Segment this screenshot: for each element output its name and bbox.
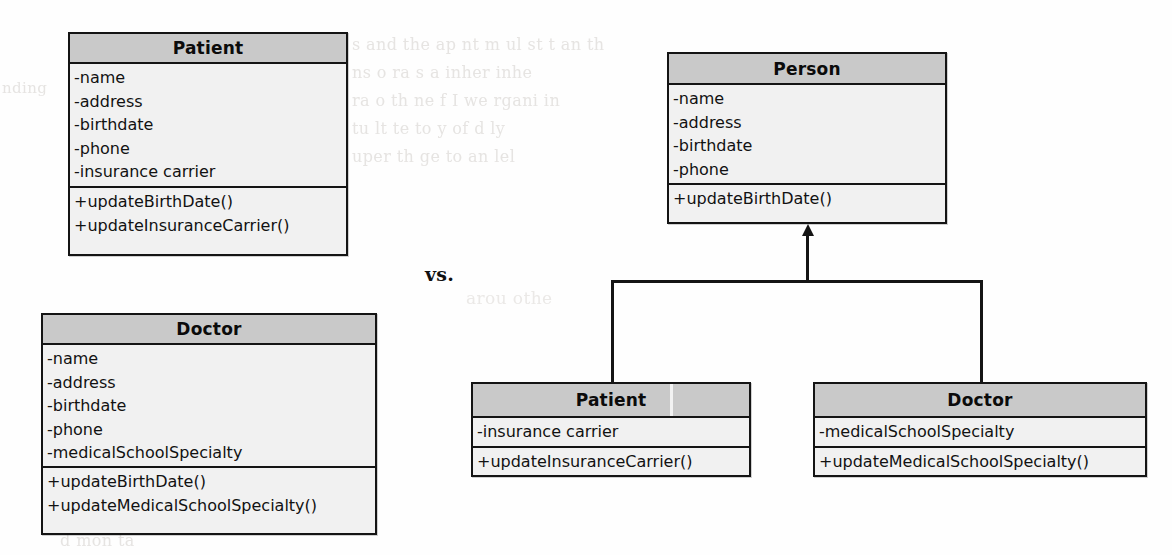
ghost-text-line: tu lt te to y of d ly [352,118,505,139]
class-box-patient-subclass[interactable]: Patient -insurance carrier +updateInsura… [471,382,751,477]
operation-item: +updateMedicalSchoolSpecialty() [819,450,1141,474]
ghost-text-line: nding [2,78,47,99]
generalization-stem [806,235,809,282]
generalization-drop-doctor [980,280,983,383]
class-name-label: Patient [173,38,244,58]
class-name-label: Doctor [947,390,1012,410]
ghost-text-line: arou othe [466,288,553,309]
attribute-item: -name [74,66,342,90]
class-box-doctor-duplicated[interactable]: Doctor -name -address -birthdate -phone … [41,313,377,535]
class-header-doctor: Doctor [43,315,375,345]
attribute-item: -name [673,87,941,111]
attribute-item: -address [47,371,371,395]
operations-compartment: +updateBirthDate() [669,183,945,222]
class-box-person-superclass[interactable]: Person -name -address -birthdate -phone … [667,52,947,224]
ghost-text-line: s and the ap nt m ul st t an th [352,34,605,55]
operation-item: +updateInsuranceCarrier() [477,450,745,474]
attributes-compartment: -name -address -birthdate -phone -medica… [43,345,375,466]
attribute-item: -birthdate [47,394,371,418]
attribute-item: -medicalSchoolSpecialty [47,441,371,465]
attribute-item: -insurance carrier [74,160,342,184]
operation-item: +updateBirthDate() [74,190,342,214]
class-box-patient-duplicated[interactable]: Patient -name -address -birthdate -phone… [68,32,348,256]
attribute-item: -name [47,347,371,371]
operation-item: +updateMedicalSchoolSpecialty() [47,494,371,518]
class-box-doctor-subclass[interactable]: Doctor -medicalSchoolSpecialty +updateMe… [813,382,1147,477]
class-header-patient: Patient [70,34,346,64]
operations-compartment: +updateBirthDate() +updateMedicalSchoolS… [43,466,375,533]
generalization-crossbar [611,280,983,283]
attribute-item: -phone [47,418,371,442]
ghost-text-line: uper th ge to an lel [352,146,515,167]
operation-item: +updateBirthDate() [673,187,941,211]
attribute-item: -address [74,90,342,114]
attribute-item: -address [673,111,941,135]
ghost-text-line: ns o ra s a inher inhe [352,62,532,83]
class-name-label: Person [773,59,840,79]
operations-compartment: +updateBirthDate() +updateInsuranceCarri… [70,186,346,254]
generalization-drop-patient [611,280,614,383]
operations-compartment: +updateInsuranceCarrier() [473,446,749,475]
class-header-patient-sub: Patient [473,384,749,418]
class-header-person: Person [669,54,945,85]
attribute-item: -phone [673,158,941,182]
class-header-doctor-sub: Doctor [815,384,1145,418]
operation-item: +updateInsuranceCarrier() [74,214,342,238]
attributes-compartment: -insurance carrier [473,418,749,446]
attribute-item: -birthdate [74,113,342,137]
class-name-label: Doctor [176,319,241,339]
attribute-item: -birthdate [673,134,941,158]
uml-diagram-canvas: nding s and the ap nt m ul st t an th ns… [0,0,1172,555]
operation-item: +updateBirthDate() [47,470,371,494]
attribute-item: -insurance carrier [477,420,745,444]
attributes-compartment: -medicalSchoolSpecialty [815,418,1145,446]
operations-compartment: +updateMedicalSchoolSpecialty() [815,446,1145,475]
scan-artifact-streak [670,384,673,416]
attributes-compartment: -name -address -birthdate -phone -insura… [70,64,346,186]
ghost-text-line: ra o th ne f I we rgani in [352,90,560,111]
attribute-item: -phone [74,137,342,161]
attribute-item: -medicalSchoolSpecialty [819,420,1141,444]
class-name-label: Patient [576,390,647,410]
comparison-label: vs. [425,263,454,285]
attributes-compartment: -name -address -birthdate -phone [669,85,945,183]
